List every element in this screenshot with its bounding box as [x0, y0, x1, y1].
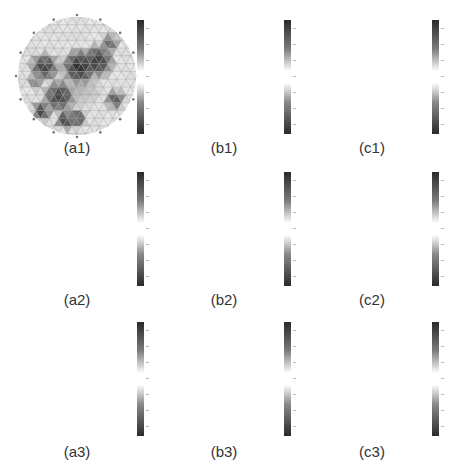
- eit-image-a1: [0, 0, 461, 474]
- mesh-element: [50, 9, 59, 17]
- mesh-element: [18, 142, 27, 150]
- mesh-element: [140, 134, 149, 142]
- mesh-element: [149, 33, 158, 41]
- mesh-element: [108, 17, 117, 25]
- colorbar-tick: [441, 212, 444, 213]
- mesh-element: [27, 25, 36, 33]
- mesh-element: [149, 64, 158, 72]
- colorbar-tick: [441, 92, 444, 93]
- colorbar-tick: [146, 180, 149, 181]
- mesh-element: [18, 25, 27, 33]
- colorbar-tick: [293, 124, 296, 125]
- mesh-element: [131, 142, 140, 150]
- mesh-element: [149, 48, 158, 56]
- mesh-element: [23, 9, 32, 17]
- mesh-element: [135, 134, 144, 142]
- colorbar-tick: [441, 108, 444, 109]
- colorbar-tick: [293, 196, 296, 197]
- mesh-element: [27, 126, 36, 134]
- electrode-marker: [52, 131, 55, 134]
- colorbar-tick: [441, 330, 444, 331]
- mesh-element: [14, 142, 23, 150]
- mesh-element: [108, 134, 117, 142]
- mesh-element: [140, 142, 149, 150]
- colorbar-tick: [146, 410, 149, 411]
- mesh-element: [36, 126, 45, 134]
- electrode-marker: [33, 118, 36, 121]
- mesh-element: [144, 64, 153, 72]
- mesh-element: [86, 9, 95, 17]
- electrode-marker: [132, 51, 135, 54]
- colorbar-tick: [293, 330, 296, 331]
- mesh-element: [14, 9, 23, 17]
- colorbar-tick: [146, 196, 149, 197]
- mesh-element: [153, 134, 162, 142]
- mesh-element: [23, 25, 32, 33]
- mesh-element: [149, 142, 158, 150]
- mesh-element: [9, 33, 18, 41]
- mesh-element: [9, 64, 18, 72]
- colorbar-tick: [441, 180, 444, 181]
- colorbar-tick: [441, 44, 444, 45]
- panel-label-c2: (c2): [342, 291, 402, 308]
- colorbar-tick: [146, 212, 149, 213]
- colorbar-tick: [293, 180, 296, 181]
- mesh-element: [18, 40, 27, 48]
- mesh-element: [9, 48, 18, 56]
- colorbar-tick: [146, 44, 149, 45]
- mesh-element: [54, 9, 63, 17]
- mesh-element: [23, 142, 32, 150]
- electrode-marker: [52, 18, 55, 21]
- panel-label-b1: (b1): [194, 139, 254, 156]
- mesh-element: [122, 134, 131, 142]
- mesh-element: [14, 17, 23, 25]
- mesh-element: [126, 126, 135, 134]
- mesh-element: [126, 111, 135, 119]
- mesh-element: [122, 9, 131, 17]
- colorbar-tick: [293, 244, 296, 245]
- mesh-element: [104, 17, 113, 25]
- mesh-element: [135, 142, 144, 150]
- colorbar-tick: [146, 244, 149, 245]
- mesh-element: [117, 118, 126, 126]
- mesh-element: [32, 142, 41, 150]
- mesh-element: [113, 142, 122, 150]
- electrode-marker: [119, 118, 122, 121]
- colorbar: [137, 172, 144, 286]
- mesh-element: [113, 134, 122, 142]
- mesh-element: [14, 40, 23, 48]
- colorbar-tick: [441, 260, 444, 261]
- colorbar-tick: [293, 76, 296, 77]
- colorbar-tick: [441, 124, 444, 125]
- colorbar-tick: [146, 362, 149, 363]
- colorbar: [284, 322, 291, 436]
- figure-grid: (a1)(b1)(c1)(a2)(b2)(c2)(a3)(b3)(c3): [0, 0, 461, 474]
- mesh-element: [144, 103, 153, 111]
- mesh-element: [113, 17, 122, 25]
- colorbar-tick: [146, 276, 149, 277]
- mesh-element: [18, 134, 27, 142]
- colorbar-tick: [146, 330, 149, 331]
- colorbar-tick: [441, 228, 444, 229]
- colorbar-tick: [146, 28, 149, 29]
- colorbar-tick: [441, 426, 444, 427]
- colorbar-tick: [441, 28, 444, 29]
- mesh-element: [149, 111, 158, 119]
- mesh-element: [153, 87, 162, 95]
- mesh-element: [18, 111, 27, 119]
- mesh-element: [23, 33, 32, 41]
- electrode-marker: [19, 51, 22, 54]
- mesh-element: [126, 134, 135, 142]
- mesh-element: [126, 25, 135, 33]
- mesh-element: [9, 79, 18, 87]
- colorbar-tick: [293, 228, 296, 229]
- mesh-element: [14, 118, 23, 126]
- colorbar-tick: [293, 346, 296, 347]
- mesh-element: [27, 142, 36, 150]
- mesh-element: [117, 126, 126, 134]
- mesh-element: [149, 72, 158, 80]
- mesh-element: [144, 95, 153, 103]
- mesh-element: [144, 79, 153, 87]
- mesh-element: [32, 17, 41, 25]
- electrode-marker: [132, 98, 135, 101]
